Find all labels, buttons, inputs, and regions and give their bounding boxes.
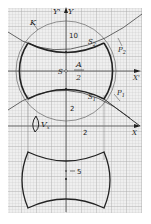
point-s — [65, 70, 67, 72]
point-bottom-center — [65, 178, 67, 180]
tick-5: 5 — [77, 168, 81, 176]
label-k: K — [29, 18, 37, 27]
construction-diagram: Y' Y K 10 S2 P2 S A 2 X' S1 P1 2 Vx 2 X … — [0, 0, 151, 224]
point-upper — [65, 51, 67, 53]
label-s: S — [58, 68, 63, 76]
tick-10: 10 — [69, 32, 78, 40]
label-x: X — [131, 129, 138, 137]
label-fraction-a: A — [75, 60, 82, 69]
label-x-prime: X' — [132, 74, 140, 82]
point-lower — [65, 88, 67, 90]
label-y-prime: Y' — [53, 7, 60, 16]
label-fraction-2: 2 — [75, 73, 81, 82]
label-y: Y — [68, 7, 74, 16]
tick-2-lower: 2 — [83, 129, 87, 137]
tick-2-upper: 2 — [70, 105, 74, 113]
point-5 — [65, 170, 67, 172]
